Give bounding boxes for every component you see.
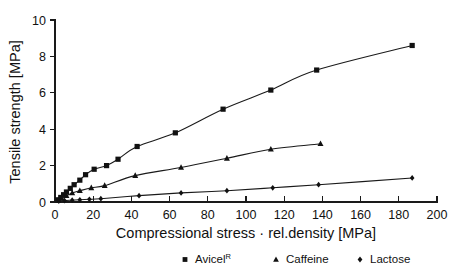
data-point-square	[173, 130, 178, 135]
data-point-diamond	[99, 196, 104, 202]
legend-marker-diamond	[358, 257, 363, 263]
series-avicel	[55, 43, 415, 203]
data-point-square	[220, 107, 225, 112]
x-tick-label: 60	[163, 208, 177, 222]
data-point-square	[115, 157, 120, 162]
series-trend-line	[55, 178, 412, 202]
data-point-diamond	[87, 196, 92, 202]
y-axis-line	[50, 20, 55, 202]
y-tick-label: 8	[39, 50, 46, 64]
legend-marker-triangle	[273, 256, 279, 261]
data-point-diamond	[225, 188, 230, 194]
axes-group	[50, 20, 437, 202]
legend-marker-square	[183, 257, 188, 262]
x-tick-label: 200	[427, 208, 448, 222]
legend-item-avicel: AvicelR	[183, 252, 232, 265]
data-point-square	[72, 182, 77, 187]
x-tick-label: 0	[52, 208, 59, 222]
data-point-diamond	[316, 182, 321, 188]
data-point-square	[410, 43, 415, 48]
data-point-diamond	[410, 175, 415, 181]
data-point-triangle	[318, 141, 324, 147]
y-tick-label: 2	[39, 159, 46, 173]
data-point-diamond	[270, 185, 275, 191]
data-point-square	[83, 172, 88, 177]
x-axis-ticks: 020406080100120140160180200	[52, 196, 448, 222]
data-point-diamond	[179, 190, 184, 196]
x-axis-title: Compressional stress · rel.density [MPa]	[116, 225, 376, 241]
x-tick-label: 20	[86, 208, 100, 222]
series-trend-line	[55, 45, 412, 202]
data-point-square	[268, 87, 273, 92]
x-tick-label: 120	[274, 208, 295, 222]
legend-item-lactose: Lactose	[358, 253, 411, 265]
x-tick-label: 80	[201, 208, 215, 222]
y-tick-label: 10	[32, 14, 46, 28]
chart-figure: 0246810 020406080100120140160180200 Tens…	[0, 0, 460, 280]
x-tick-label: 40	[124, 208, 138, 222]
data-series-layer	[55, 43, 415, 204]
data-point-square	[92, 167, 97, 172]
x-tick-label: 180	[388, 208, 409, 222]
y-tick-label: 6	[39, 86, 46, 100]
tensile-strength-plot: 0246810 020406080100120140160180200 Tens…	[0, 0, 460, 280]
x-tick-label: 160	[350, 208, 371, 222]
y-axis-title: Tensile strength [MPa]	[7, 40, 23, 183]
data-point-square	[104, 163, 109, 168]
x-tick-label: 100	[236, 208, 257, 222]
data-point-square	[314, 67, 319, 72]
y-tick-label: 0	[39, 196, 46, 210]
y-tick-label: 4	[39, 123, 46, 137]
data-point-square	[135, 144, 140, 149]
data-point-diamond	[137, 193, 142, 199]
x-tick-label: 140	[312, 208, 333, 222]
legend-label: Caffeine	[286, 253, 329, 265]
y-axis-ticks: 0246810	[32, 14, 55, 210]
legend-label-superscript: R	[225, 252, 231, 261]
series-trend-line	[55, 144, 320, 202]
legend-item-caffeine: Caffeine	[273, 253, 329, 265]
chart-legend: AvicelRCaffeineLactose	[183, 252, 411, 265]
legend-label: Lactose	[370, 253, 410, 265]
data-point-square	[77, 178, 82, 183]
legend-label: AvicelR	[195, 252, 231, 265]
